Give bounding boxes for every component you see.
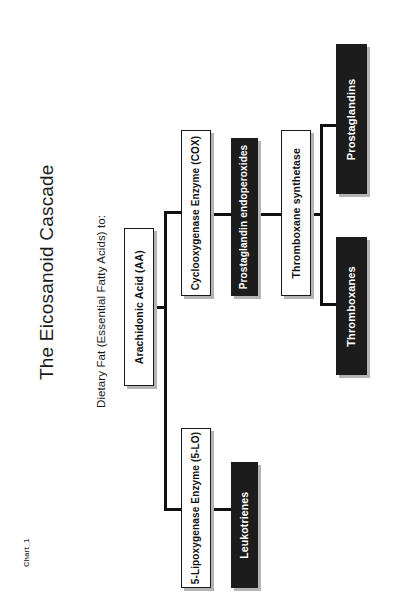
node-lipoxygenase-enzyme-label: 5-Lipoxygenase Enzyme (5-LO): [191, 432, 201, 585]
connector-branch-to-prostaglandins: [320, 124, 336, 127]
connector-branch-to-thromboxanes: [320, 303, 336, 306]
chart-number-label: Chart_1: [22, 538, 31, 567]
page-title: The Eicosanoid Cascade: [36, 164, 58, 380]
node-lipoxygenase-enzyme[interactable]: 5-Lipoxygenase Enzyme (5-LO): [181, 428, 211, 588]
node-thromboxane-synthetase[interactable]: Thromboxane synthetase: [281, 130, 311, 296]
connector-synthetase-branch-bus: [320, 124, 323, 306]
node-arachidonic-acid-label: Arachidonic Acid (AA): [134, 250, 145, 364]
node-prostaglandins-label: Prostaglandins: [346, 78, 357, 160]
node-cyclooxygenase-enzyme-label: Cyclooxygenase Enzyme (COX): [191, 136, 201, 291]
node-cyclooxygenase-enzyme[interactable]: Cyclooxygenase Enzyme (COX): [181, 130, 211, 296]
node-prostaglandin-endoperoxides[interactable]: Prostaglandin endoperoxides: [231, 138, 258, 296]
node-leukotrienes-label: Leukotrienes: [239, 491, 250, 558]
connector-endoperoxides-to-synthetase: [258, 213, 281, 216]
node-prostaglandins[interactable]: Prostaglandins: [336, 44, 367, 194]
connector-cox-to-endoperoxides: [211, 213, 231, 216]
connector-branch-to-cox: [164, 211, 181, 214]
page-subtitle: Dietary Fat (Essential Fatty Acids) to:: [95, 215, 107, 408]
node-arachidonic-acid[interactable]: Arachidonic Acid (AA): [124, 228, 154, 386]
node-leukotrienes[interactable]: Leukotrienes: [231, 462, 258, 588]
connector-lox-to-leukotrienes: [211, 508, 231, 511]
node-thromboxane-synthetase-label: Thromboxane synthetase: [291, 148, 302, 279]
connector-aa-branch-bus: [164, 211, 167, 511]
node-thromboxanes[interactable]: Thromboxanes: [336, 237, 367, 375]
connector-branch-to-lox: [164, 508, 181, 511]
node-prostaglandin-endoperoxides-label: Prostaglandin endoperoxides: [240, 145, 250, 290]
chart-canvas: Chart_1 The Eicosanoid Cascade Dietary F…: [0, 0, 397, 601]
node-thromboxanes-label: Thromboxanes: [346, 266, 357, 347]
